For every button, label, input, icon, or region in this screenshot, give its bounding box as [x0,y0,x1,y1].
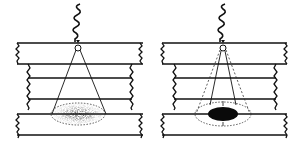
diffuse-spot [51,103,105,125]
wavy-beam-icon [218,4,225,42]
panel-right [161,4,287,138]
wavy-beam-icon [73,4,80,42]
middle-slabs [173,64,277,110]
panel-left [16,4,143,138]
focused-spot [208,107,238,121]
focal-point-icon [220,45,226,51]
diagram-stage [0,0,307,142]
